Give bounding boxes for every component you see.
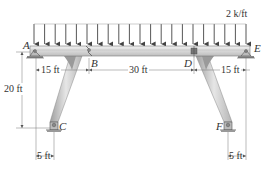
frame-diagram	[0, 0, 277, 171]
point-label-F: F	[216, 121, 223, 132]
dimension-C-offset: 5 ft	[37, 151, 51, 161]
dimension-F-offset: 5 ft	[229, 151, 243, 161]
point-label-D: D	[184, 58, 192, 69]
point-label-A: A	[23, 40, 30, 51]
beam-AE	[30, 46, 250, 56]
load-label: 2 k/ft	[226, 9, 247, 19]
dimension-height: 20 ft	[4, 83, 23, 95]
point-label-C: C	[59, 121, 66, 132]
distributed-load-arrows	[34, 24, 246, 44]
point-label-E: E	[254, 43, 261, 54]
dimension-DE: 15 ft	[220, 65, 241, 75]
dimension-BD: 30 ft	[128, 65, 149, 75]
dimension-AB: 15 ft	[40, 65, 61, 75]
point-label-B: B	[91, 58, 98, 69]
